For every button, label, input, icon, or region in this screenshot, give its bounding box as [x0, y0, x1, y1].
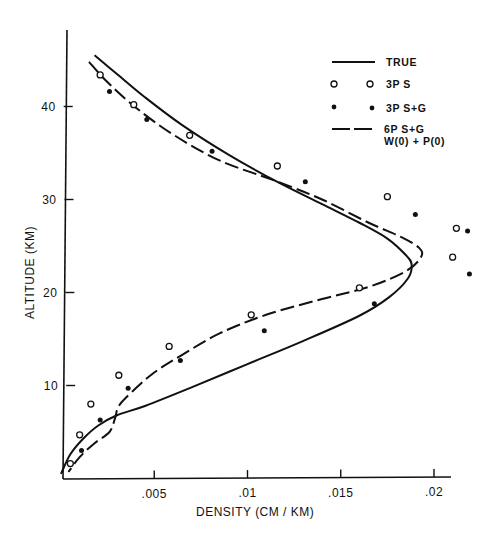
legend-item-3p-s: 3P S — [331, 78, 411, 90]
filled-circle-marker — [126, 386, 131, 391]
filled-circle-marker — [144, 117, 149, 122]
solid-curve-true — [61, 55, 412, 474]
x-tick-label: .015 — [328, 486, 353, 500]
filled-circle-marker — [210, 149, 215, 154]
filled-circle-marker — [178, 358, 183, 363]
dashed-curve-6p-sg — [68, 62, 422, 472]
curves — [61, 55, 422, 474]
y-ticks: 10203040 — [41, 100, 75, 393]
axes — [63, 30, 451, 479]
x-tick-label: .005 — [142, 487, 167, 501]
legend-label: 6P S+G — [384, 123, 424, 135]
y-tick-label: 20 — [43, 286, 57, 300]
open-circle-marker — [67, 461, 73, 467]
x-ticks: .005.01.015.02 — [142, 469, 444, 500]
x-tick-label: .02 — [425, 485, 443, 499]
legend-label: TRUE — [386, 56, 417, 68]
x-axis — [63, 477, 451, 479]
filled-circle-marker — [372, 301, 377, 306]
y-tick-label: 30 — [42, 193, 56, 207]
x-axis-label: DENSITY (CM / KM) — [196, 505, 314, 519]
open-circle-icon — [367, 81, 373, 87]
legend-label: 3P S — [386, 78, 411, 90]
legend-label: 3P S+G — [386, 102, 426, 114]
legend-item-3p-sg: 3P S+G — [332, 102, 427, 114]
filled-circle-marker — [98, 417, 103, 422]
open-circle-marker — [453, 225, 459, 231]
open-circle-marker — [131, 102, 137, 108]
filled-circle-icon — [370, 106, 375, 111]
y-axis-label: ALTITUDE (KM) — [23, 226, 37, 319]
legend-item-6p-sg: 6P S+G W(0) + P(0) — [332, 123, 445, 147]
y-tick-label: 10 — [44, 379, 58, 393]
open-circle-marker — [116, 372, 122, 378]
filled-circle-marker — [465, 229, 470, 234]
open-circle-marker — [450, 254, 456, 260]
open-circle-marker — [384, 194, 390, 200]
filled-circle-marker — [107, 89, 112, 94]
filled-circle-marker — [467, 271, 472, 276]
filled-circle-marker — [303, 179, 308, 184]
open-circle-icon — [331, 81, 337, 87]
open-circle-marker — [77, 432, 83, 438]
open-circle-marker — [248, 312, 254, 318]
y-axis — [63, 30, 67, 479]
open-circle-marker — [187, 132, 193, 138]
legend-label-line2: W(0) + P(0) — [384, 135, 445, 147]
y-tick-label: 40 — [41, 100, 55, 114]
filled-circle-marker — [79, 448, 84, 453]
open-circle-marker — [166, 343, 172, 349]
open-circle-marker — [274, 163, 280, 169]
legend-item-true: TRUE — [332, 56, 417, 68]
filled-circle-icon — [332, 105, 337, 110]
open-circle-marker — [356, 285, 362, 291]
legend: TRUE 3P S 3P S+G 6P S+G W(0) + P(0) — [331, 56, 445, 147]
open-circle-marker — [97, 72, 103, 78]
open-circle-marker — [88, 401, 94, 407]
filled-circle-marker — [413, 212, 418, 217]
filled-circle-marker — [262, 328, 267, 333]
x-tick-label: .01 — [238, 486, 256, 500]
density-altitude-chart: 10203040 .005.01.015.02 DENSITY (CM / KM… — [0, 0, 493, 539]
